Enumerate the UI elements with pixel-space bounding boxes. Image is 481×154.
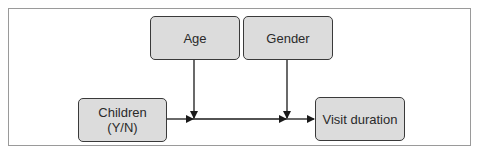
node-children-label: Children bbox=[98, 105, 146, 120]
node-visit-duration-label: Visit duration bbox=[323, 112, 398, 127]
node-age-label: Age bbox=[183, 31, 206, 46]
node-visit-duration: Visit duration bbox=[315, 97, 405, 141]
node-age: Age bbox=[150, 16, 240, 60]
node-gender: Gender bbox=[243, 16, 333, 60]
node-children: Children (Y/N) bbox=[78, 98, 167, 142]
node-children-sublabel: (Y/N) bbox=[107, 120, 137, 135]
node-gender-label: Gender bbox=[266, 31, 309, 46]
